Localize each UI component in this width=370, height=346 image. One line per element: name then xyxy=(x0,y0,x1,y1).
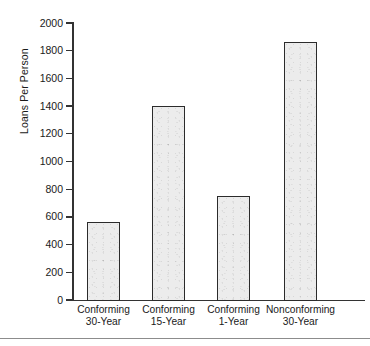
category-label-line1: Nonconforming xyxy=(266,304,335,315)
y-tick-1600 xyxy=(66,78,73,79)
bar-3 xyxy=(217,196,250,301)
y-tick-label-1800: 1800 xyxy=(3,45,63,55)
y-tick-1000 xyxy=(66,161,73,162)
category-label-4: Nonconforming30-Year xyxy=(253,304,349,327)
bar-4 xyxy=(284,42,317,300)
footer-divider xyxy=(0,338,370,339)
y-tick-label-800: 800 xyxy=(3,184,63,194)
y-tick-1200 xyxy=(66,133,73,134)
y-tick-600 xyxy=(66,216,73,217)
bar-chart-figure: Loans Per Person 02004006008001000120014… xyxy=(0,0,370,346)
y-tick-1400 xyxy=(66,105,73,106)
y-tick-label-1000: 1000 xyxy=(3,156,63,166)
y-tick-label-600: 600 xyxy=(3,211,63,221)
y-tick-label-0: 0 xyxy=(3,295,63,305)
y-tick-800 xyxy=(66,189,73,190)
y-tick-400 xyxy=(66,244,73,245)
y-tick-label-200: 200 xyxy=(3,267,63,277)
y-tick-label-1200: 1200 xyxy=(3,128,63,138)
y-tick-2000 xyxy=(66,22,73,23)
y-tick-label-1600: 1600 xyxy=(3,73,63,83)
y-tick-0 xyxy=(66,299,73,300)
y-tick-200 xyxy=(66,272,73,273)
y-tick-label-1400: 1400 xyxy=(3,101,63,111)
y-tick-label-2000: 2000 xyxy=(3,18,63,28)
y-tick-1800 xyxy=(66,50,73,51)
bar-2 xyxy=(152,106,185,301)
bar-1 xyxy=(87,222,120,301)
category-label-line2: 30-Year xyxy=(253,316,349,328)
y-tick-label-400: 400 xyxy=(3,239,63,249)
